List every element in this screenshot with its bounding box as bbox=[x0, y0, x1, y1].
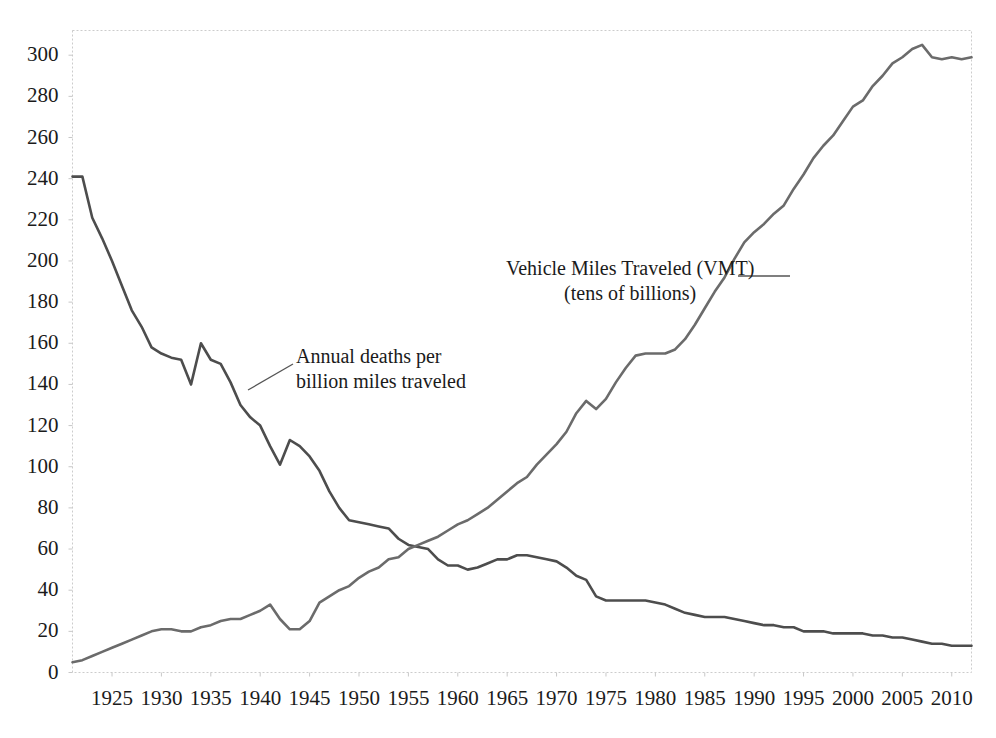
y-tick-label-40: 40 bbox=[0, 579, 59, 600]
chart-plot-area bbox=[0, 0, 996, 738]
y-tick-label-300: 300 bbox=[0, 44, 59, 65]
y-tick-label-220: 220 bbox=[0, 209, 59, 230]
y-tick-label-200: 200 bbox=[0, 250, 59, 271]
annotation-vmt: Vehicle Miles Traveled (VMT) (tens of bi… bbox=[506, 256, 754, 306]
y-tick-label-100: 100 bbox=[0, 456, 59, 477]
y-tick-label-140: 140 bbox=[0, 373, 59, 394]
y-tick-label-60: 60 bbox=[0, 538, 59, 559]
y-tick-label-20: 20 bbox=[0, 620, 59, 641]
y-tick-label-120: 120 bbox=[0, 415, 59, 436]
y-tick-label-0: 0 bbox=[0, 662, 59, 683]
annotation-deaths: Annual deaths per billion miles traveled bbox=[296, 344, 466, 394]
y-tick-label-280: 280 bbox=[0, 85, 59, 106]
annotation-deaths-line1: Annual deaths per bbox=[296, 345, 442, 367]
y-tick-label-180: 180 bbox=[0, 291, 59, 312]
y-tick-label-80: 80 bbox=[0, 497, 59, 518]
annotation-vmt-line2: (tens of billions) bbox=[506, 281, 754, 306]
annotation-vmt-line1: Vehicle Miles Traveled (VMT) bbox=[506, 257, 754, 279]
y-tick-label-160: 160 bbox=[0, 332, 59, 353]
y-tick-label-260: 260 bbox=[0, 127, 59, 148]
y-axis-tick-marks bbox=[69, 55, 73, 672]
annotation-deaths-line2: billion miles traveled bbox=[296, 369, 466, 394]
x-axis-tick-marks bbox=[112, 673, 952, 677]
x-tick-label-2010: 2010 bbox=[917, 688, 987, 709]
chart-figure: 0204060801001201401601802002202402602803… bbox=[0, 0, 996, 738]
y-tick-label-240: 240 bbox=[0, 168, 59, 189]
